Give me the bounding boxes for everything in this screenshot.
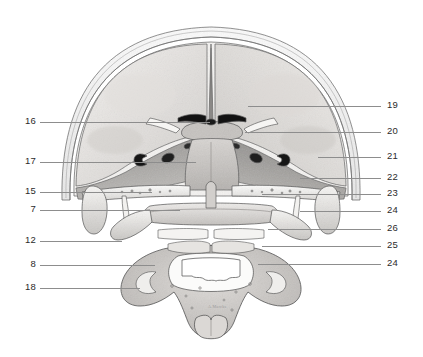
callout-label-15[interactable]: 15 <box>6 186 36 196</box>
leader-line-right-6 <box>268 229 381 230</box>
leader-line-left-2 <box>40 192 152 193</box>
leader-line-right-5 <box>300 211 381 212</box>
callout-label-7[interactable]: 7 <box>6 204 36 214</box>
leader-line-right-0 <box>248 106 381 107</box>
callout-label-12[interactable]: 12 <box>6 235 36 245</box>
callout-label-17[interactable]: 17 <box>6 156 36 166</box>
leader-line-right-2 <box>318 157 381 158</box>
artist-signature: A.Marcks <box>208 304 226 309</box>
callout-label-16[interactable]: 16 <box>6 116 36 126</box>
callout-label-19[interactable]: 19 <box>387 100 417 110</box>
callout-label-22[interactable]: 22 <box>387 172 417 182</box>
callout-label-18[interactable]: 18 <box>6 282 36 292</box>
leader-line-left-1 <box>40 162 196 163</box>
leader-line-right-8 <box>258 264 381 265</box>
leader-line-left-3 <box>40 210 180 211</box>
leader-line-right-7 <box>262 246 381 247</box>
leader-line-left-4 <box>40 241 122 242</box>
callout-label-25[interactable]: 25 <box>387 240 417 250</box>
leader-line-right-1 <box>245 132 381 133</box>
leader-line-right-4 <box>262 194 381 195</box>
callout-label-24[interactable]: 24 <box>387 258 417 268</box>
callout-label-23[interactable]: 23 <box>387 188 417 198</box>
leader-line-left-5 <box>40 265 155 266</box>
anatomical-figure: A.Marcks 161715712818192021222324262524 <box>0 0 423 357</box>
callout-label-24[interactable]: 24 <box>387 205 417 215</box>
callout-label-20[interactable]: 20 <box>387 126 417 136</box>
leader-line-left-6 <box>40 288 140 289</box>
callout-label-8[interactable]: 8 <box>6 259 36 269</box>
callout-label-26[interactable]: 26 <box>387 223 417 233</box>
leader-line-right-3 <box>300 178 381 179</box>
leader-line-left-0 <box>40 122 210 123</box>
callout-label-21[interactable]: 21 <box>387 151 417 161</box>
